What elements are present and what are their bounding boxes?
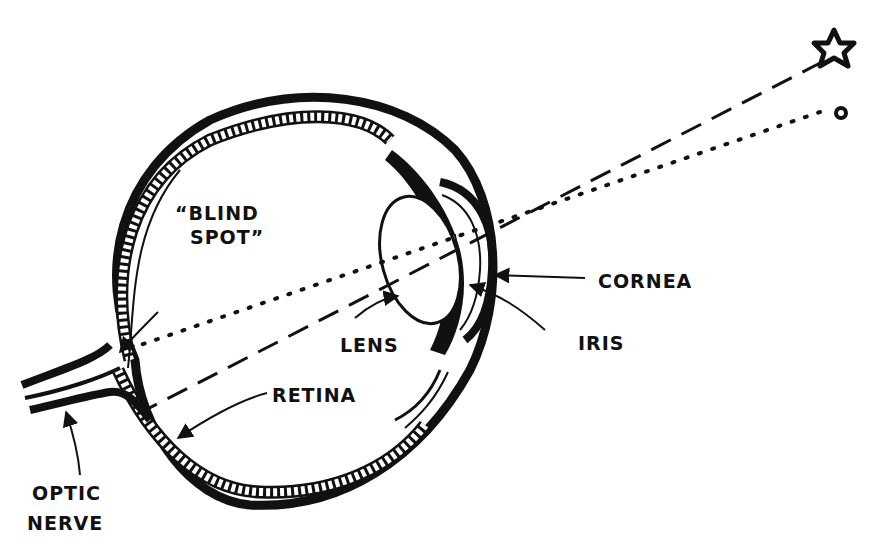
label-lens: LENS xyxy=(340,334,399,356)
label-iris: IRIS xyxy=(578,332,624,354)
label-blind-spot: “BLIND xyxy=(175,202,259,224)
label-arrows xyxy=(66,275,585,475)
label-blind-spot-2: SPOT” xyxy=(190,226,264,248)
eye-diagram: “BLIND SPOT” CORNEA IRIS LENS RETINA OPT… xyxy=(0,0,869,556)
label-retina: RETINA xyxy=(272,384,356,406)
circle-icon xyxy=(836,108,846,118)
star-icon xyxy=(814,30,854,66)
label-nerve: NERVE xyxy=(27,512,103,534)
label-optic: OPTIC xyxy=(32,482,101,504)
label-cornea: CORNEA xyxy=(598,270,692,292)
retina-layer xyxy=(118,117,425,492)
